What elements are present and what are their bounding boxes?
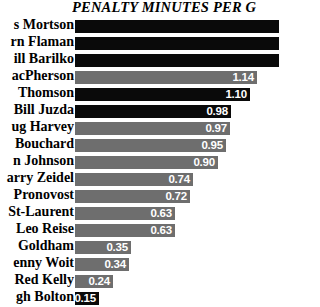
bar: 0.74: [75, 173, 193, 186]
bar-value-label: 0.74: [168, 173, 190, 186]
bar-track: 0.74: [75, 173, 279, 186]
bar-track: 0.90: [75, 156, 279, 169]
bar-value-label: 0.24: [88, 275, 110, 288]
chart-row: Bill Juzda0.98: [0, 103, 279, 120]
bar-track: 0.97: [75, 122, 279, 135]
chart-row: rn Flaman: [0, 35, 279, 52]
bar-category-label: n Johnson: [0, 153, 74, 168]
bar-category-label: Pronovost: [0, 187, 74, 202]
chart-row: St-Laurent0.63: [0, 205, 279, 222]
bar-value-label: 0.72: [165, 190, 187, 203]
bar-track: 0.72: [75, 190, 279, 203]
bar: 0.63: [75, 207, 175, 220]
chart-row: acPherson1.14: [0, 69, 279, 86]
bar-track: [75, 37, 279, 50]
bar-value-label: 0.63: [150, 224, 172, 237]
bar-track: 0.35: [75, 241, 279, 254]
bar-track: 0.95: [75, 139, 279, 152]
chart-row: s Mortson: [0, 18, 279, 35]
bar-category-label: s Mortson: [0, 17, 74, 32]
chart-row: Bouchard0.95: [0, 137, 279, 154]
bar-category-label: enny Woit: [0, 255, 74, 270]
bar-track: 0.24: [75, 275, 279, 288]
chart-row: gh Bolton0.15: [0, 290, 279, 307]
bar-track: 1.10: [75, 88, 279, 101]
bar-category-label: Thomson: [0, 85, 74, 100]
chart-row: Pronovost0.72: [0, 188, 279, 205]
bar-category-label: Leo Reise: [0, 221, 74, 236]
bar: 0.97: [75, 122, 230, 135]
bar-value-label: 1.10: [225, 88, 247, 101]
bar-track: [75, 20, 279, 33]
bar-value-label: 0.90: [193, 156, 215, 169]
bar: 0.34: [75, 258, 129, 271]
bar-value-label: 0.35: [106, 241, 128, 254]
bar-value-label: 0.34: [104, 258, 126, 271]
chart-row: Thomson1.10: [0, 86, 279, 103]
bar-track: 0.63: [75, 207, 279, 220]
bar-category-label: Bouchard: [0, 136, 74, 151]
chart-row: Goldham0.35: [0, 239, 279, 256]
bar: 0.90: [75, 156, 218, 169]
bar-category-label: rn Flaman: [0, 34, 74, 49]
bar-category-label: Red Kelly: [0, 272, 74, 287]
bar: [75, 20, 279, 33]
chart-row: n Johnson0.90: [0, 154, 279, 171]
bar-category-label: gh Bolton: [0, 289, 74, 304]
bar-category-label: ill Barilko: [0, 51, 74, 66]
chart-row: Leo Reise0.63: [0, 222, 279, 239]
bar: 0.24: [75, 275, 113, 288]
bar: 0.72: [75, 190, 190, 203]
chart-row: Red Kelly0.24: [0, 273, 279, 290]
chart-row: enny Woit0.34: [0, 256, 279, 273]
bar-value-label: 0.97: [205, 122, 227, 135]
chart-row: arry Zeidel0.74: [0, 171, 279, 188]
chart-row: ill Barilko: [0, 52, 279, 69]
bar-track: 0.63: [75, 224, 279, 237]
bar-track: 0.98: [75, 105, 279, 118]
bar: [75, 37, 279, 50]
bar-track: 1.14: [75, 71, 279, 84]
bar: 0.63: [75, 224, 175, 237]
bar-track: 0.34: [75, 258, 279, 271]
bar-value-label: 0.15: [74, 292, 96, 305]
bar-value-label: 0.98: [206, 105, 228, 118]
bar: 0.98: [75, 105, 231, 118]
chart-title: PENALTY MINUTES PER G: [72, 0, 320, 16]
bar-category-label: ug Harvey: [0, 119, 74, 134]
bar-category-label: St-Laurent: [0, 204, 74, 219]
chart-row: ug Harvey0.97: [0, 120, 279, 137]
bar: 0.15: [75, 292, 99, 305]
bar-value-label: 0.95: [201, 139, 223, 152]
bar: [75, 54, 279, 67]
bar-value-label: 0.63: [150, 207, 172, 220]
bar: 1.14: [75, 71, 257, 84]
bar: 1.10: [75, 88, 250, 101]
bar-category-label: arry Zeidel: [0, 170, 74, 185]
bar-track: 0.15: [75, 292, 279, 305]
chart-rows: s Mortsonrn Flamanill BarilkoacPherson1.…: [0, 18, 279, 307]
bar-track: [75, 54, 279, 67]
bar-category-label: acPherson: [0, 68, 74, 83]
bar: 0.35: [75, 241, 131, 254]
bar-value-label: 1.14: [232, 71, 254, 84]
bar: 0.95: [75, 139, 226, 152]
bar-category-label: Bill Juzda: [0, 102, 74, 117]
bar-category-label: Goldham: [0, 238, 74, 253]
